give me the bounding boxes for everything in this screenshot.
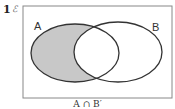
venn-diagram: A B (0, 0, 175, 109)
set-a-label: A (34, 20, 42, 32)
diagram-caption: A ∩ B′ (0, 99, 175, 109)
set-b-label: B (152, 21, 159, 33)
